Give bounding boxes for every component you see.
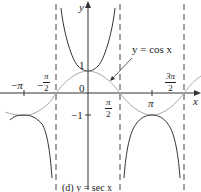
x-tick-neg-pi: −π: [11, 80, 23, 91]
y-tick-1: 1: [79, 60, 85, 71]
x-axis-label: x: [193, 96, 198, 107]
figure-caption: (d) y = sec x: [62, 183, 112, 192]
cos-curve-label: y = cos x: [132, 44, 172, 55]
plot-area: [0, 0, 201, 192]
x-tick-pi-half: π 2: [105, 98, 112, 119]
x-tick-pi: π: [148, 98, 154, 109]
x-tick-three-pi-half: 3π 2: [165, 72, 176, 93]
origin-label: 0: [79, 83, 85, 94]
y-axis-arrow-icon: [85, 1, 91, 8]
y-tick-neg1: −1: [71, 110, 83, 121]
asymptotes: [56, 4, 184, 190]
annotation-pointer: [112, 58, 132, 79]
y-axis-label: y: [79, 2, 84, 13]
x-tick-neg-pi-half: π 2: [43, 72, 50, 93]
